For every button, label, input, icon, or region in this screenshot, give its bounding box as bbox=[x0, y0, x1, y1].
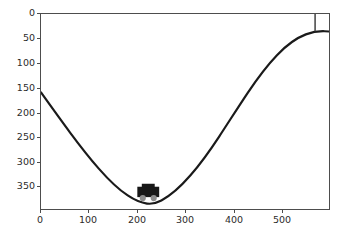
xtick-mark-100 bbox=[88, 210, 89, 213]
xtick-mark-500 bbox=[282, 210, 283, 213]
xtick-label-400: 400 bbox=[225, 215, 243, 225]
car-roof bbox=[142, 184, 155, 188]
ytick-label-350: 350 bbox=[17, 181, 35, 191]
xtick-mark-0 bbox=[40, 210, 41, 213]
matplotlib-figure: 0 50 100 150 200 250 300 350 0 100 200 3… bbox=[0, 0, 344, 239]
ytick-mark-350 bbox=[37, 186, 40, 187]
xtick-label-100: 100 bbox=[79, 215, 97, 225]
ytick-label-250: 250 bbox=[17, 132, 35, 142]
xtick-mark-200 bbox=[137, 210, 138, 213]
ytick-label-150: 150 bbox=[17, 83, 35, 93]
xtick-label-300: 300 bbox=[176, 215, 194, 225]
ytick-label-200: 200 bbox=[17, 108, 35, 118]
xtick-label-200: 200 bbox=[128, 215, 146, 225]
mountain-car-sprite bbox=[137, 184, 159, 201]
ytick-mark-0 bbox=[37, 13, 40, 14]
ytick-label-0: 0 bbox=[29, 8, 35, 18]
car-wheel-rear bbox=[140, 195, 146, 201]
xtick-mark-400 bbox=[234, 210, 235, 213]
car-wheel-front bbox=[151, 195, 157, 201]
goal-flag bbox=[315, 14, 329, 31]
ytick-mark-300 bbox=[37, 162, 40, 163]
xtick-mark-300 bbox=[185, 210, 186, 213]
ytick-mark-250 bbox=[37, 137, 40, 138]
plot-canvas bbox=[41, 14, 329, 209]
ytick-mark-50 bbox=[37, 38, 40, 39]
ytick-mark-150 bbox=[37, 88, 40, 89]
xtick-label-0: 0 bbox=[37, 215, 43, 225]
car-body bbox=[137, 187, 159, 197]
terrain-curve-group bbox=[41, 31, 329, 204]
ytick-label-50: 50 bbox=[23, 33, 35, 43]
plot-axes bbox=[40, 13, 330, 210]
ytick-label-300: 300 bbox=[17, 157, 35, 167]
ytick-mark-200 bbox=[37, 113, 40, 114]
terrain-curve bbox=[41, 31, 329, 204]
xtick-label-500: 500 bbox=[273, 215, 291, 225]
ytick-mark-100 bbox=[37, 63, 40, 64]
ytick-label-100: 100 bbox=[17, 58, 35, 68]
